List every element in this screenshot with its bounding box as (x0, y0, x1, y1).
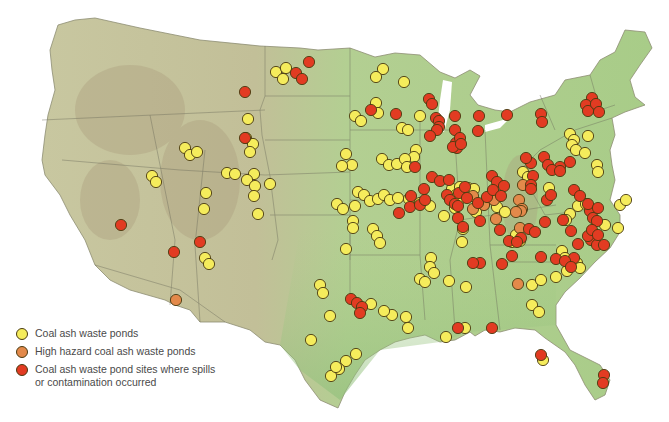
coal-ash-pond-marker (419, 276, 430, 287)
coal-ash-pond-marker (305, 334, 316, 345)
contamination-site-marker (354, 307, 365, 318)
high-hazard-pond-marker (170, 294, 181, 305)
contamination-site-marker (455, 138, 466, 149)
coal-ash-pond-marker (347, 222, 358, 233)
coal-ash-pond-marker (252, 208, 263, 219)
contamination-site-marker (474, 215, 485, 226)
coal-ash-pond-marker (280, 62, 291, 73)
contamination-site-marker (409, 161, 420, 172)
contamination-site-marker (393, 207, 404, 218)
contamination-site-marker (405, 190, 416, 201)
legend-label: High hazard coal ash waste ponds (35, 345, 196, 358)
coal-ash-pond-marker (355, 115, 366, 126)
coal-ash-pond-marker (440, 331, 451, 342)
coal-ash-pond-marker (324, 310, 335, 321)
coal-ash-pond-marker (336, 160, 347, 171)
coal-ash-pond-marker (198, 203, 209, 214)
contamination-site-marker (520, 152, 531, 163)
contamination-site-marker (525, 183, 536, 194)
contamination-site-marker (459, 181, 470, 192)
coal-ash-pond-marker (402, 322, 413, 333)
contamination-site-marker (457, 221, 468, 232)
contamination-site-marker (461, 192, 472, 203)
coal-ash-pond-marker (460, 281, 471, 292)
contamination-site-marker (486, 322, 497, 333)
contamination-site-marker (598, 239, 609, 250)
coal-ash-pond-marker (374, 237, 385, 248)
contamination-site-marker (554, 165, 565, 176)
coal-ash-pond-marker (443, 275, 454, 286)
high-hazard-pond-marker (490, 213, 501, 224)
contamination-site-marker (535, 349, 546, 360)
coal-ash-pond-marker (620, 194, 631, 205)
contamination-site-marker (303, 56, 314, 67)
contamination-site-marker (239, 132, 250, 143)
contamination-site-marker (239, 86, 250, 97)
coal-ash-pond-marker (200, 187, 211, 198)
contamination-site-marker (506, 250, 517, 261)
yellow-circle-icon (16, 328, 28, 340)
coal-ash-pond-marker (317, 287, 328, 298)
contamination-site-marker (564, 156, 575, 167)
contamination-site-marker (115, 219, 126, 230)
contamination-site-marker (452, 322, 463, 333)
high-hazard-pond-marker (512, 278, 523, 289)
contamination-site-marker (452, 200, 463, 211)
contamination-site-marker (443, 174, 454, 185)
legend-item-high-hazard: High hazard coal ash waste ponds (16, 345, 256, 358)
contamination-site-marker (572, 238, 583, 249)
coal-ash-pond-marker (346, 159, 357, 170)
coal-ash-pond-marker (579, 147, 590, 158)
contamination-site-marker (582, 198, 593, 209)
coal-ash-pond-marker (378, 305, 389, 316)
coal-ash-pond-marker (340, 148, 351, 159)
coal-ash-pond-marker (264, 178, 275, 189)
contamination-site-marker (535, 251, 546, 262)
orange-circle-icon (16, 346, 28, 358)
legend-item-contamination: Coal ash waste pond sites where spills o… (16, 363, 256, 389)
legend-item-coal-ash: Coal ash waste ponds (16, 327, 256, 340)
contamination-site-marker (498, 180, 509, 191)
coal-ash-pond-marker (150, 176, 161, 187)
contamination-site-marker (426, 98, 437, 109)
high-hazard-pond-marker (510, 206, 521, 217)
contamination-site-marker (545, 189, 556, 200)
contamination-site-marker (539, 216, 550, 227)
contamination-site-marker (472, 125, 483, 136)
contamination-site-marker (296, 73, 307, 84)
coal-ash-pond-marker (428, 267, 439, 278)
coal-ash-pond-marker (592, 166, 603, 177)
coal-ash-pond-marker (402, 124, 413, 135)
coal-ash-pond-marker (438, 210, 449, 221)
contamination-site-marker (494, 224, 505, 235)
coal-ash-pond-marker (550, 271, 561, 282)
contamination-site-marker (467, 257, 478, 268)
contamination-site-marker (511, 236, 522, 247)
coal-ash-pond-marker (242, 113, 253, 124)
contamination-site-marker (496, 258, 507, 269)
contamination-site-marker (194, 236, 205, 247)
coal-ash-pond-marker (277, 73, 288, 84)
coal-ash-pond-marker (456, 236, 467, 247)
contamination-site-marker (473, 110, 484, 121)
contamination-site-marker (424, 130, 435, 141)
coal-ash-pond-marker (330, 361, 341, 372)
contamination-site-marker (418, 183, 429, 194)
coal-ash-pond-marker (400, 311, 411, 322)
contamination-site-marker (565, 261, 576, 272)
coal-ash-pond-marker (349, 200, 360, 211)
coal-ash-pond-marker (191, 146, 202, 157)
coal-ash-pond-marker (392, 192, 403, 203)
coal-ash-pond-marker (229, 168, 240, 179)
coal-ash-pond-marker (350, 348, 361, 359)
contamination-site-marker (536, 116, 547, 127)
red-circle-icon (16, 364, 28, 376)
coal-ash-pond-marker (203, 258, 214, 269)
coal-ash-pond-marker (535, 274, 546, 285)
coal-ash-pond-marker (414, 110, 425, 121)
contamination-site-marker (365, 104, 376, 115)
coal-ash-pond-marker (582, 130, 593, 141)
coal-ash-pond-marker (612, 222, 623, 233)
legend-label: Coal ash waste pond sites where spills o… (35, 363, 225, 389)
legend-label: Coal ash waste ponds (35, 327, 138, 340)
